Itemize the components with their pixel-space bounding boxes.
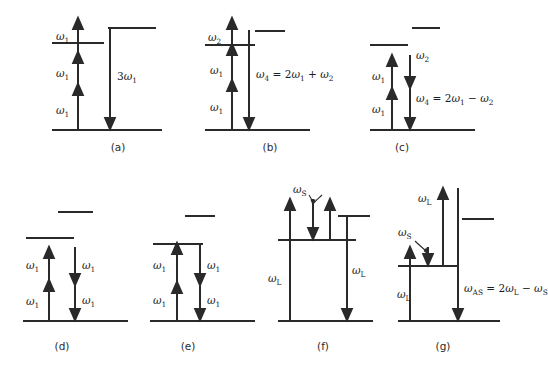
panel-label-g: (g) bbox=[423, 340, 463, 352]
label-omegaS-g: ωS bbox=[398, 226, 412, 241]
equation-g: ωAS = 2ωL − ωS bbox=[464, 282, 548, 297]
label-omegaL-g-bottom: ωL bbox=[397, 288, 410, 303]
label-omegaL-g-top: ωL bbox=[418, 192, 431, 207]
